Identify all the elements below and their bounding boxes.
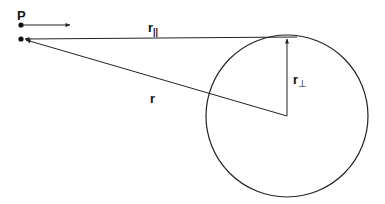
- r-vector: [26, 40, 287, 116]
- label-r-parallel: r||: [148, 20, 158, 37]
- label-r: r: [150, 91, 155, 106]
- observer-dot: [18, 36, 23, 41]
- label-r-perp: r⊥: [293, 72, 307, 89]
- label-p: P: [17, 8, 26, 23]
- r-parallel-vector: [25, 37, 297, 39]
- diagram-canvas: P r|| r r⊥: [0, 0, 385, 204]
